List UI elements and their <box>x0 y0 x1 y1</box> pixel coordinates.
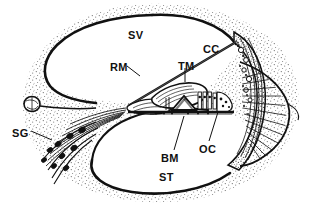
label-oc: OC <box>199 144 216 155</box>
label-st: ST <box>159 172 174 183</box>
cochlea-figure: SV CC RM TM SG OC BM ST <box>0 0 314 211</box>
label-sv: SV <box>128 30 143 41</box>
label-sg: SG <box>12 128 29 139</box>
label-cc: CC <box>203 44 220 55</box>
label-rm: RM <box>110 62 128 73</box>
label-tm: TM <box>178 61 195 72</box>
label-bm: BM <box>161 153 179 164</box>
cochlea-diagram <box>0 0 314 211</box>
